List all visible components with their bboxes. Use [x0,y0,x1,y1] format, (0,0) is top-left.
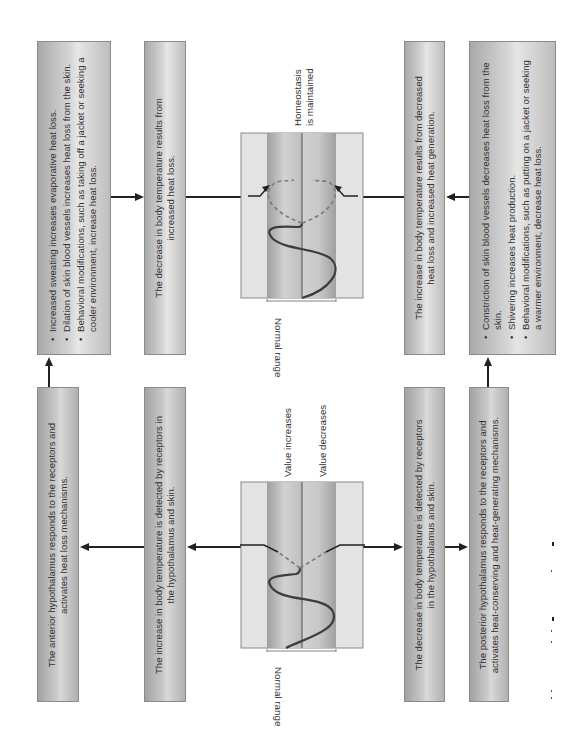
bullet-vasoconstriction: Constriction of skin blood vessels decre… [480,56,504,330]
increase-receptor-text: The increase in body temperature is dete… [153,415,177,675]
homeostasis-maintained-line2: is maintained [304,68,315,126]
temperature-increase-result-text: The increase in body temperature results… [413,68,437,328]
bullet-behavioral-warming: Behavioral modifications, such as puttin… [520,56,544,330]
anterior-hypothalamus-text: The anterior hypothalamus responds to th… [46,415,70,675]
value-increases-label: Value increases [282,408,293,477]
bullet-vasodilation: Dilation of skin blood vessels increases… [61,54,73,332]
arrow-response-to-result-line [454,196,469,198]
decrease-receptor-text: The decrease in body temperature is dete… [413,415,437,675]
bullet-behavioral-cooling: Behavioral modifications, such as taking… [75,54,99,332]
posterior-hypothalamus-text: The posterior hypothalamus responds to t… [477,409,501,681]
temperature-decrease-result-box: The decrease in body temperature results… [144,41,186,355]
arrow-head-right-icon [459,543,468,551]
heat-conserving-response-list: Constriction of skin blood vessels decre… [480,56,546,340]
temperature-decrease-result-text: The decrease in body temperature results… [153,78,177,318]
arrow-anterior-to-response-line [48,363,50,387]
anterior-hypothalamus-box: The anterior hypothalamus responds to th… [37,387,79,702]
arrow-head-left-icon [187,543,196,551]
homeostasis-maintained-line1: Homeostasis [292,69,303,126]
arrow-head-right-icon [135,193,144,201]
deviation-graph [240,480,365,652]
arrow-receptor-to-anterior-line [88,546,144,548]
bullet-sweating: Increased sweating increases evaporative… [47,54,59,332]
top-graph-normal-range-label: Normal range [273,318,284,377]
decrease-receptor-box: The decrease in body temperature is dete… [404,387,445,702]
heat-conserving-response-box: Constriction of skin blood vessels decre… [469,41,556,355]
arrow-head-left-icon [446,193,455,201]
arrow-head-left-icon [80,543,89,551]
value-decreases-label: Value decreases [317,405,328,477]
arrow-response-to-result-line [111,196,137,198]
arrow-head-right-icon [394,543,403,551]
arrow-head-up-icon [484,357,492,366]
arrow-posterior-to-response-line [487,363,489,387]
increase-receptor-box: The increase in body temperature is dete… [144,387,186,702]
heat-loss-response-box: Increased sweating increases evaporative… [37,41,111,355]
arrow-head-up-icon [45,357,53,366]
temperature-increase-result-box: The increase in body temperature results… [404,41,445,355]
arrow-result-to-graph-line [186,196,248,198]
bullet-shivering: Shivering increases heat production. [506,56,518,330]
heat-loss-response-list: Increased sweating increases evaporative… [47,54,101,342]
homeostasis-graph [240,130,365,302]
cropped-caption-glyphs [548,530,568,730]
posterior-hypothalamus-box: The posterior hypothalamus responds to t… [469,387,509,702]
bottom-graph-normal-range-label: Normal range [273,667,284,726]
